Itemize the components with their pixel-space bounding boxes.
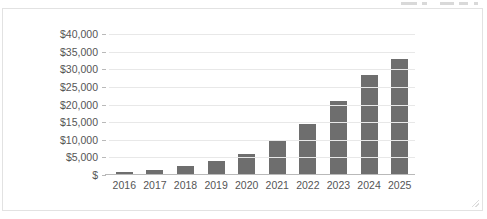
x-axis-labels: 2016201720182019202020212022202320242025: [109, 179, 415, 191]
bar[interactable]: [208, 161, 225, 174]
y-axis-tick: [102, 122, 106, 123]
toolbar-icon-d[interactable]: [459, 2, 468, 5]
y-axis-label: $15,000: [60, 116, 98, 128]
y-axis-tick: [102, 34, 106, 35]
y-axis-label: $5,000: [66, 151, 98, 163]
toolbar-icon-e[interactable]: [474, 2, 478, 5]
gridline: [109, 34, 415, 35]
y-axis-label: $20,000: [60, 99, 98, 111]
y-axis-tick: [102, 52, 106, 53]
x-axis-label: 2017: [140, 179, 171, 191]
x-axis-label: 2021: [262, 179, 293, 191]
resize-handle[interactable]: [472, 200, 479, 207]
x-axis-label: 2018: [170, 179, 201, 191]
x-axis-label: 2022: [293, 179, 324, 191]
toolbar-icon-a[interactable]: [401, 2, 417, 5]
y-axis-tick: [102, 69, 106, 70]
x-axis-label: 2025: [384, 179, 415, 191]
bar[interactable]: [361, 75, 378, 174]
bar[interactable]: [299, 124, 316, 174]
x-axis-line: [105, 174, 415, 175]
y-axis-label: $10,000: [60, 134, 98, 146]
bar[interactable]: [330, 101, 347, 174]
gridline: [109, 87, 415, 88]
y-axis-tick: [102, 157, 106, 158]
bar-chart: $$5,000$10,000$15,000$20,000$25,000$30,0…: [3, 9, 482, 210]
chart-frame[interactable]: $$5,000$10,000$15,000$20,000$25,000$30,0…: [2, 8, 483, 211]
x-axis-label: 2019: [201, 179, 232, 191]
y-axis-label: $35,000: [60, 46, 98, 58]
y-axis-tick: [102, 175, 106, 176]
bar[interactable]: [177, 166, 194, 174]
gridline: [109, 157, 415, 158]
y-axis-label: $25,000: [60, 81, 98, 93]
gridline: [109, 105, 415, 106]
x-axis-label: 2023: [323, 179, 354, 191]
toolbar-icon-b[interactable]: [422, 2, 427, 5]
toolbar-icon-c[interactable]: [440, 2, 454, 5]
toolbar-fragment: [398, 0, 487, 6]
x-axis-label: 2024: [354, 179, 385, 191]
y-axis-tick: [102, 105, 106, 106]
gridline: [109, 122, 415, 123]
x-axis-label: 2016: [109, 179, 140, 191]
gridline: [109, 52, 415, 53]
y-axis-tick: [102, 87, 106, 88]
y-axis-label: $40,000: [60, 28, 98, 40]
gridline: [109, 140, 415, 141]
plot-area: $$5,000$10,000$15,000$20,000$25,000$30,0…: [109, 34, 415, 175]
y-axis-tick: [102, 140, 106, 141]
y-axis-label: $30,000: [60, 63, 98, 75]
y-axis-label: $: [92, 169, 98, 181]
x-axis-label: 2020: [231, 179, 262, 191]
gridline: [109, 69, 415, 70]
